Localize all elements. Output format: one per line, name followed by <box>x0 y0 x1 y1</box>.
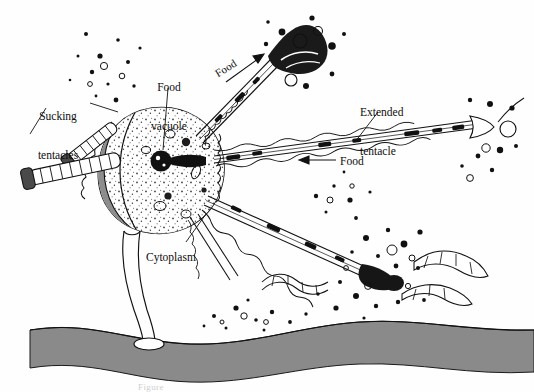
label-sucking-tentacles-line1: Sucking <box>22 110 94 123</box>
label-extended-tentacle-line1: Extended <box>360 106 446 119</box>
prey-dark-organism <box>264 15 346 89</box>
label-food-vacuole: Food vacuole <box>134 55 204 159</box>
label-sucking-tentacles: Sucking tentacles <box>22 84 94 188</box>
label-sucking-tentacles-line2: tentacles <box>22 149 94 162</box>
label-food-vacuole-line1: Food <box>134 81 204 94</box>
substrate <box>30 321 534 382</box>
extended-tentacle-lower-right <box>184 196 404 307</box>
label-food-vacuole-line2: vacuole <box>134 120 204 133</box>
label-cytoplasm: Cytoplasm <box>146 251 216 264</box>
food-arrow-lower <box>299 156 336 164</box>
figure-caption: Figure <box>138 382 164 392</box>
stalk <box>123 231 164 350</box>
label-extended-tentacle: Extended tentacle <box>360 80 446 184</box>
leader-sucking-tentacles-a <box>90 103 118 112</box>
extended-tentacle-lower-short <box>188 214 238 280</box>
label-food-lower: Food <box>340 155 380 168</box>
